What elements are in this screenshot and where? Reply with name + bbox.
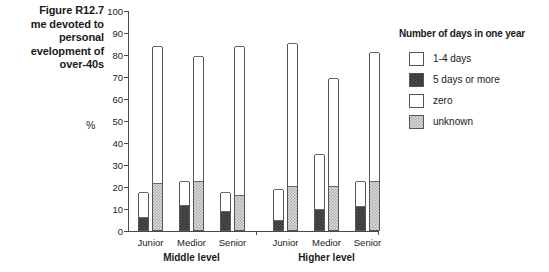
- legend-swatch-unknown: [409, 115, 424, 129]
- y-axis-line: [128, 11, 129, 231]
- x-axis-category-label: Senior: [219, 237, 246, 248]
- figure-caption: Figure R12.7 me devoted to personal evel…: [0, 4, 104, 72]
- y-axis-tick-label: 0: [118, 226, 123, 237]
- y-axis-tick-label: 70: [112, 72, 123, 83]
- y-axis-tick: [124, 99, 128, 100]
- legend-item: 1-4 days: [399, 48, 549, 69]
- bar-segment-unknown: [288, 186, 297, 230]
- y-axis-tick: [124, 11, 128, 12]
- bar: [179, 182, 190, 232]
- y-axis-tick-label: 20: [112, 182, 123, 193]
- legend-label: 1-4 days: [433, 53, 471, 64]
- x-axis-group-tick: [256, 231, 257, 235]
- y-axis-tick-label: 40: [112, 138, 123, 149]
- x-axis-line: [128, 231, 378, 232]
- bar: [234, 47, 245, 231]
- bar: [193, 57, 204, 231]
- bar-segment-5-days-or-more: [139, 217, 148, 230]
- bar-segment-unknown: [153, 183, 162, 230]
- bar: [369, 53, 380, 231]
- chart-legend: Number of days in one year 1-4 days5 day…: [399, 28, 549, 132]
- x-axis-category-label: Senior: [354, 237, 381, 248]
- legend-label: zero: [433, 95, 452, 106]
- bar-segment-unknown: [235, 195, 244, 230]
- y-axis-tick: [124, 55, 128, 56]
- y-axis-tick-label: 60: [112, 94, 123, 105]
- y-axis-tick-label: 30: [112, 160, 123, 171]
- bar: [138, 193, 149, 232]
- y-axis-title: %: [86, 119, 95, 131]
- x-axis-category-label: Junior: [138, 237, 164, 248]
- bar: [287, 44, 298, 231]
- legend-item: zero: [399, 90, 549, 111]
- bar: [328, 79, 339, 231]
- legend-swatch-zero: [409, 94, 424, 108]
- y-axis-tick: [124, 231, 128, 232]
- bar: [355, 182, 366, 232]
- x-axis-group-label: Middle level: [163, 252, 220, 263]
- x-axis-category-label: Medior: [312, 237, 341, 248]
- y-axis-tick-label: 80: [112, 50, 123, 61]
- bar-segment-unknown: [370, 181, 379, 231]
- y-axis-tick: [124, 187, 128, 188]
- y-axis-tick: [124, 143, 128, 144]
- bar-segment-5-days-or-more: [356, 206, 365, 230]
- bar: [273, 190, 284, 231]
- y-axis-tick-label: 100: [107, 6, 123, 17]
- y-axis-tick-label: 50: [112, 116, 123, 127]
- bar-segment-unknown: [329, 186, 338, 230]
- y-axis-tick: [124, 121, 128, 122]
- y-axis-tick: [124, 33, 128, 34]
- legend-title: Number of days in one year: [399, 28, 549, 39]
- y-axis-tick: [124, 209, 128, 210]
- legend-item: 5 days or more: [399, 69, 549, 90]
- x-axis-category-label: Junior: [273, 237, 299, 248]
- y-axis-tick-label: 10: [112, 204, 123, 215]
- x-axis-group-tick: [378, 231, 379, 235]
- y-axis-tick: [124, 165, 128, 166]
- y-axis-tick: [124, 77, 128, 78]
- legend-swatch-1-4-days: [409, 52, 424, 66]
- legend-item: unknown: [399, 111, 549, 132]
- legend-label: unknown: [433, 116, 473, 127]
- legend-label: 5 days or more: [433, 74, 500, 85]
- x-axis-category-label: Medior: [177, 237, 206, 248]
- legend-swatch-5-days-or-more: [409, 73, 424, 87]
- x-axis-group-label: Higher level: [298, 252, 355, 263]
- bar-segment-5-days-or-more: [221, 211, 230, 230]
- bar: [152, 47, 163, 231]
- bar: [220, 193, 231, 232]
- legend-rows: 1-4 days5 days or morezerounknown: [399, 48, 549, 132]
- bar-segment-5-days-or-more: [274, 220, 283, 230]
- bar-segment-unknown: [194, 181, 203, 231]
- bar: [314, 155, 325, 231]
- chart-plot-area: % 0102030405060708090100 JuniorMediorSen…: [128, 11, 368, 231]
- bar-segment-5-days-or-more: [315, 209, 324, 230]
- y-axis-tick-label: 90: [112, 28, 123, 39]
- bar-segment-5-days-or-more: [180, 205, 189, 230]
